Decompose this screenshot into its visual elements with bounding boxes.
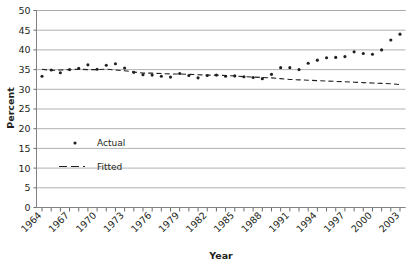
data-point <box>59 71 62 74</box>
data-point <box>353 50 356 53</box>
data-point <box>398 33 401 36</box>
data-point <box>307 62 310 65</box>
data-point <box>297 68 300 71</box>
data-point <box>86 63 89 66</box>
legend-marker-actual <box>73 141 76 144</box>
data-point <box>105 64 108 67</box>
data-point <box>380 48 383 51</box>
y-axis-tick-label: 40 <box>18 44 30 55</box>
data-point <box>325 56 328 59</box>
data-point <box>362 52 365 55</box>
legend-label-actual: Actual <box>97 138 125 148</box>
data-point <box>160 75 163 78</box>
data-point <box>40 75 43 78</box>
data-point <box>233 74 236 77</box>
y-axis-tick-label: 45 <box>18 25 30 36</box>
data-point <box>334 56 337 59</box>
data-point <box>316 59 319 62</box>
y-axis-tick-label: 50 <box>18 5 30 16</box>
legend-label-fitted: Fitted <box>97 162 122 172</box>
y-axis-tick-label: 20 <box>18 123 30 134</box>
data-point <box>187 74 190 77</box>
data-point <box>206 74 209 77</box>
x-axis-title: Year <box>208 250 233 261</box>
data-point <box>224 75 227 78</box>
y-axis-tick-label: 35 <box>18 64 30 75</box>
data-point <box>96 68 99 71</box>
y-axis-tick-label: 30 <box>18 84 30 95</box>
data-point <box>123 66 126 69</box>
y-axis-tick-label: 15 <box>18 143 30 154</box>
percent-vs-year-scatter-chart: 05101520253035404550 1964196719701973197… <box>0 0 413 266</box>
y-axis-tick-label: 5 <box>24 182 30 193</box>
data-point <box>288 66 291 69</box>
data-point <box>215 74 218 77</box>
data-point <box>50 68 53 71</box>
chart-container: 05101520253035404550 1964196719701973197… <box>0 0 413 266</box>
data-point <box>114 62 117 65</box>
data-point <box>77 67 80 70</box>
y-axis-tick-label: 25 <box>18 103 30 114</box>
data-point <box>178 72 181 75</box>
data-point <box>197 76 200 79</box>
data-point <box>169 76 172 79</box>
data-point <box>252 76 255 79</box>
data-point <box>389 39 392 42</box>
y-axis-tick-label: 0 <box>24 202 30 213</box>
data-point <box>279 66 282 69</box>
data-point <box>343 55 346 58</box>
data-point <box>141 73 144 76</box>
data-point <box>242 75 245 78</box>
y-axis-tick-label: 10 <box>18 163 30 174</box>
data-point <box>371 53 374 56</box>
data-point <box>68 68 71 71</box>
data-point <box>132 71 135 74</box>
y-axis-title: Percent <box>5 87 16 129</box>
data-point <box>270 73 273 76</box>
data-point <box>261 77 264 80</box>
data-point <box>151 74 154 77</box>
